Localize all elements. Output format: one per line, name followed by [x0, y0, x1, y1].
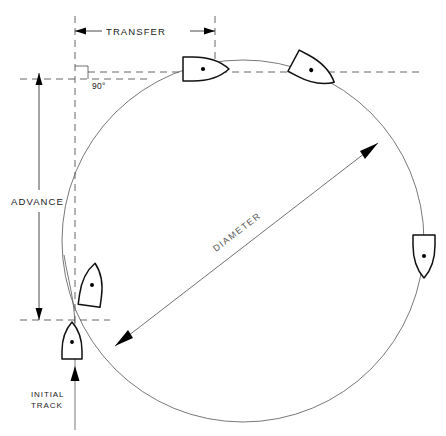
ship-starboard: [413, 235, 435, 278]
diameter-line: [115, 143, 378, 346]
turning-circle-diagram-root: 90° TRANSFER ADVANCE INITIAL TRACK: [0, 0, 446, 436]
transfer-arrow-right-icon: [204, 28, 215, 35]
ship-turn-start: [78, 262, 106, 308]
ship-past-ninety: [288, 50, 340, 93]
initial-track-label-line1: INITIAL: [31, 390, 64, 399]
diameter-arrow-upper-icon: [360, 143, 378, 159]
advance-label: ADVANCE: [11, 196, 64, 207]
turning-circle-diagram: 90° TRANSFER ADVANCE INITIAL TRACK: [0, 0, 446, 436]
diameter-arrow-lower-icon: [115, 330, 133, 346]
initial-track-arrow-icon: [71, 366, 80, 381]
diameter-label: DIAMETER: [211, 210, 263, 253]
turning-circle: [62, 60, 424, 422]
transfer-arrow-left-icon: [75, 28, 86, 35]
transfer-label: TRANSFER: [106, 26, 166, 37]
right-angle-marker: [75, 66, 88, 79]
initial-track-label-line2: TRACK: [31, 401, 63, 410]
angle-label: 90°: [92, 81, 106, 91]
ship-initial: [62, 322, 82, 359]
ship-ninety-degrees: [183, 57, 229, 81]
advance-arrow-bottom-icon: [36, 308, 43, 320]
